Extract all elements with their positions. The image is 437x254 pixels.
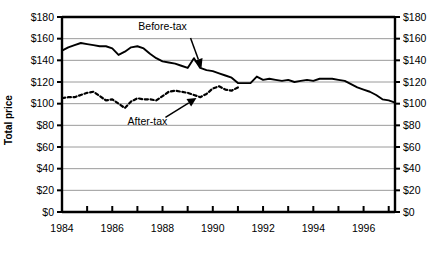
chart-container: $0$20$40$60$80$100$120$140$160$180 $0$20… xyxy=(0,0,437,254)
y-tick-label: $0 xyxy=(403,206,415,218)
y-tick-label: $40 xyxy=(403,162,421,174)
x-tick-label: 1986 xyxy=(101,222,125,234)
x-tick-label: 1994 xyxy=(302,222,326,234)
x-tick-label: 1992 xyxy=(251,222,275,234)
annotation-label-before-tax: Before-tax xyxy=(138,20,187,32)
chart-background xyxy=(0,0,437,254)
x-tick-label: 1990 xyxy=(201,222,225,234)
y-tick-label: $160 xyxy=(403,32,427,44)
x-tick-label: 1984 xyxy=(50,222,74,234)
y-tick-label: $60 xyxy=(403,141,421,153)
line-chart: $0$20$40$60$80$100$120$140$160$180 $0$20… xyxy=(0,0,437,254)
y-tick-label: $100 xyxy=(403,97,427,109)
y-tick-label: $180 xyxy=(403,11,427,23)
y-tick-label: $160 xyxy=(31,32,55,44)
y-tick-label: $120 xyxy=(403,76,427,88)
y-axis-title: Total price xyxy=(3,95,14,145)
y-tick-label: $180 xyxy=(31,11,55,23)
y-tick-label: $140 xyxy=(31,54,55,66)
y-tick-label: $100 xyxy=(31,97,55,109)
y-tick-label: $140 xyxy=(403,54,427,66)
y-tick-label: $120 xyxy=(31,76,55,88)
y-tick-label: $20 xyxy=(403,184,421,196)
y-tick-label: $0 xyxy=(42,206,54,218)
y-tick-label: $80 xyxy=(36,119,54,131)
x-tick-label: 1996 xyxy=(352,222,376,234)
annotation-label-after-tax: After-tax xyxy=(128,115,168,127)
y-tick-label: $40 xyxy=(36,162,54,174)
y-tick-label: $60 xyxy=(36,141,54,153)
y-tick-label: $20 xyxy=(36,184,54,196)
y-tick-label: $80 xyxy=(403,119,421,131)
x-tick-label: 1988 xyxy=(151,222,175,234)
